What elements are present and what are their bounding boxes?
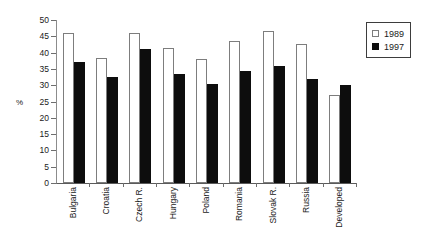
y-axis-tick-mark (51, 53, 56, 54)
y-axis-tick-label: 15 (40, 129, 49, 139)
x-axis-tick-label: Developed (334, 187, 344, 228)
x-axis-label-cell: Slovak R. (256, 187, 289, 249)
bar-1997-bulgaria (74, 62, 85, 183)
legend-swatch-icon (372, 30, 379, 37)
x-axis-tick-label: Bulgaria (68, 187, 78, 218)
bar-group (190, 20, 223, 183)
x-axis-tick-label: Russia (301, 187, 311, 213)
y-axis-tick-mark (51, 183, 56, 184)
plot-area (56, 20, 357, 184)
y-axis-tick-mark (51, 36, 56, 37)
y-axis-tick-label: 35 (40, 64, 49, 74)
x-axis-label-cell: Hungary (156, 187, 189, 249)
x-axis-tick-label: Slovak R. (268, 187, 278, 223)
bar-1997-croatia (107, 77, 118, 183)
y-axis-tick-label: 40 (40, 48, 49, 58)
bar-group (90, 20, 123, 183)
bar-group (290, 20, 323, 183)
x-axis-label-cell: Croatia (89, 187, 122, 249)
chart-legend: 19891997 (366, 22, 411, 58)
bar-group (57, 20, 90, 183)
bar-1997-poland (207, 84, 218, 183)
y-axis-tick-mark (51, 118, 56, 119)
legend-label: 1997 (384, 42, 404, 52)
bar-group (257, 20, 290, 183)
legend-label: 1989 (384, 29, 404, 39)
x-axis-tick-label: Poland (201, 187, 211, 213)
y-axis-tick-mark (51, 102, 56, 103)
x-axis-tick-mark (356, 183, 357, 187)
bar-1989-bulgaria (63, 33, 74, 183)
y-axis-tick-mark (51, 85, 56, 86)
bar-group (124, 20, 157, 183)
bar-chart: % 50454035302520151050 BulgariaCroatiaCz… (0, 0, 437, 251)
x-axis-label-cell: Romania (223, 187, 256, 249)
x-axis-tick-label: Hungary (168, 187, 178, 219)
x-axis-label-cell: Developed (323, 187, 356, 249)
bar-1989-poland (196, 59, 207, 183)
y-axis-tick-mark (51, 134, 56, 135)
bar-group (157, 20, 190, 183)
y-axis-tick-label: 0 (44, 178, 49, 188)
bar-1997-romania (240, 71, 251, 183)
legend-swatch-icon (372, 43, 379, 50)
y-axis-tick-label: 5 (44, 162, 49, 172)
x-axis-label-cell: Czech R. (123, 187, 156, 249)
bar-1989-hungary (163, 48, 174, 183)
bar-1989-romania (229, 41, 240, 183)
y-axis-tick-label: 50 (40, 15, 49, 25)
y-axis-tick-labels: 50454035302520151050 (27, 20, 49, 183)
legend-item-1997: 1997 (372, 40, 404, 53)
bar-1989-slovak-r (263, 31, 274, 183)
y-axis-tick-label: 45 (40, 31, 49, 41)
y-axis-tick-label: 30 (40, 80, 49, 90)
bar-1997-slovak-r (274, 66, 285, 183)
x-axis-tick-label: Romania (234, 187, 244, 221)
bar-1997-russia (307, 79, 318, 183)
x-axis-label-cell: Poland (189, 187, 222, 249)
y-axis-tick-label: 25 (40, 97, 49, 107)
x-axis-tick-labels: BulgariaCroatiaCzech R.HungaryPolandRoma… (56, 187, 356, 249)
y-axis-tick-mark (51, 167, 56, 168)
bar-1989-developed (329, 95, 340, 183)
bar-1989-russia (296, 44, 307, 183)
bar-1989-croatia (96, 58, 107, 184)
bar-group (224, 20, 257, 183)
bars-layer (57, 20, 357, 183)
x-axis-tick-label: Czech R. (134, 187, 144, 222)
bar-group (324, 20, 357, 183)
y-axis-tick-label: 20 (40, 113, 49, 123)
x-axis-label-cell: Russia (289, 187, 322, 249)
legend-item-1989: 1989 (372, 27, 404, 40)
bar-1997-developed (340, 85, 351, 183)
y-axis-tick-mark (51, 20, 56, 21)
bar-1989-czech-r (129, 33, 140, 183)
bar-1997-czech-r (140, 49, 151, 183)
y-axis-tick-mark (51, 150, 56, 151)
x-axis-tick-label: Croatia (101, 187, 111, 214)
y-axis-title: % (16, 98, 23, 107)
bar-1997-hungary (174, 74, 185, 183)
y-axis-tick-label: 10 (40, 145, 49, 155)
x-axis-label-cell: Bulgaria (56, 187, 89, 249)
y-axis-tick-mark (51, 69, 56, 70)
